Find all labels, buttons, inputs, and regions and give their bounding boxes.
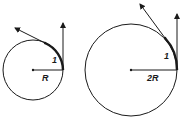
small-tangent-point bbox=[44, 42, 46, 44]
diagram-canvas: R 1 2R 1 bbox=[0, 0, 184, 120]
small-circle-diagram: R 1 bbox=[3, 23, 63, 100]
large-tangent-arrow-icon bbox=[140, 4, 165, 38]
large-circle-diagram: 2R 1 bbox=[85, 4, 177, 116]
small-radius-label: R bbox=[42, 73, 49, 83]
large-tangent-point bbox=[164, 37, 166, 39]
large-arc-label: 1 bbox=[164, 51, 169, 61]
small-arc-label: 1 bbox=[52, 55, 57, 65]
small-tangent-arrow-icon bbox=[15, 28, 45, 43]
large-radius-label: 2R bbox=[146, 73, 159, 83]
